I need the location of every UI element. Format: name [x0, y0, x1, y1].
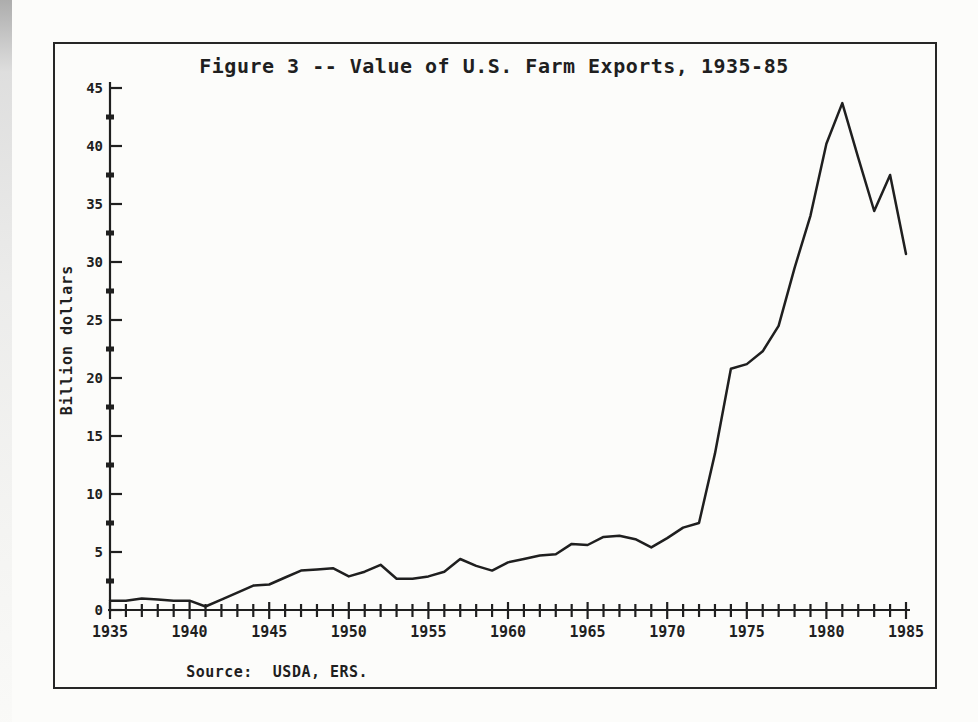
y-minor-tick	[106, 289, 114, 294]
y-minor-tick	[106, 405, 114, 410]
x-tick-label: 1965	[570, 623, 606, 641]
source-value: USDA, ERS.	[273, 663, 368, 681]
x-tick-label: 1960	[490, 623, 526, 641]
y-tick-label: 25	[86, 312, 103, 328]
y-tick-label: 35	[86, 196, 103, 212]
y-minor-tick	[106, 347, 114, 352]
scanned-document-page: Figure 3 -- Value of U.S. Farm Exports, …	[0, 0, 978, 722]
farm-exports-data-line	[110, 103, 906, 606]
farm-exports-line-chart: 0510152025303540451935194019451950195519…	[0, 0, 978, 722]
y-minor-tick	[106, 115, 114, 120]
x-tick-label: 1950	[331, 623, 367, 641]
x-tick-label: 1940	[172, 623, 208, 641]
x-tick-label: 1975	[729, 623, 765, 641]
y-tick-label: 20	[86, 370, 103, 386]
x-tick-label: 1935	[92, 623, 128, 641]
y-minor-tick	[106, 173, 114, 178]
x-tick-label: 1945	[251, 623, 287, 641]
y-minor-tick	[106, 521, 114, 526]
x-tick-label: 1985	[888, 623, 924, 641]
y-tick-label: 0	[95, 602, 103, 618]
y-tick-label: 40	[86, 138, 103, 154]
source-label: Source:	[186, 663, 253, 681]
x-tick-label: 1955	[410, 623, 446, 641]
y-tick-label: 10	[86, 486, 103, 502]
y-tick-label: 45	[86, 80, 103, 96]
source-note: Source:USDA, ERS.	[148, 645, 368, 699]
y-minor-tick	[106, 463, 114, 468]
x-tick-label: 1980	[808, 623, 844, 641]
y-minor-tick	[106, 231, 114, 236]
y-tick-label: 5	[95, 544, 103, 560]
x-tick-label: 1970	[649, 623, 685, 641]
y-tick-label: 15	[86, 428, 103, 444]
y-tick-label: 30	[86, 254, 103, 270]
y-minor-tick	[106, 579, 114, 584]
